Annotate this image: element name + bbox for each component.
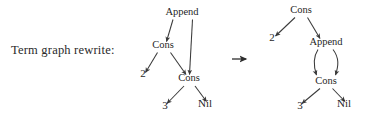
edge-conslow-to-3	[302, 89, 320, 104]
node-label-cons-top: Cons	[290, 4, 312, 15]
edge-constop-to-2	[276, 18, 296, 37]
term-graph-rewrite-figure: Term graph rewrite: Append Cons 2 Cons	[0, 0, 365, 119]
left-term-graph: Append Cons 2 Cons 3 Nil	[140, 6, 212, 111]
node-label-append: Append	[309, 36, 343, 47]
term-graph-diagram: Append Cons 2 Cons 3 Nil Cons 2 Append	[0, 0, 365, 119]
node-label-nil: Nil	[337, 97, 351, 109]
edge-cons2-to-3	[167, 86, 184, 104]
right-term-graph: Cons 2 Append Cons 3 Nil	[269, 4, 351, 111]
edge-append-to-cons2	[190, 20, 193, 75]
node-label-append: Append	[165, 6, 199, 17]
node-label-cons-upper: Cons	[152, 39, 174, 50]
node-label-three: 3	[162, 99, 168, 111]
node-label-cons-lower: Cons	[315, 75, 337, 86]
node-label-cons-lower: Cons	[178, 72, 200, 83]
node-label-two: 2	[140, 67, 146, 79]
node-label-three: 3	[297, 99, 303, 111]
edge-append-to-cons-left	[314, 50, 318, 76]
node-label-nil: Nil	[198, 97, 212, 109]
node-label-two: 2	[269, 31, 275, 43]
edge-append-to-cons-right	[333, 50, 338, 76]
edge-cons1-to-2	[146, 53, 158, 73]
